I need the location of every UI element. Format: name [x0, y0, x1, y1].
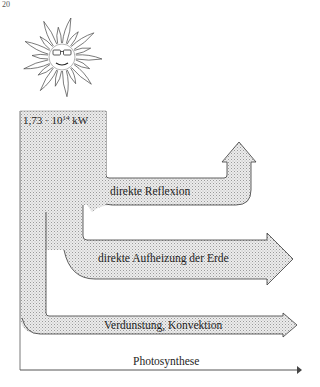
- sun-ray: [74, 60, 89, 69]
- sun-ray: [57, 27, 62, 43]
- sun-ray: [74, 48, 90, 54]
- label-aufheizung: direkte Aufheizung der Erde: [98, 253, 229, 265]
- power-unit: kW: [72, 114, 88, 126]
- label-verdunstung: Verdunstung, Konvektion: [104, 320, 222, 332]
- sun-ray: [62, 70, 68, 96]
- power-base: 1,73 · 10: [23, 114, 62, 126]
- sun-ray: [55, 70, 61, 86]
- label-reflexion: direkte Reflexion: [110, 186, 190, 198]
- photosynthese-arrowhead: [297, 366, 302, 374]
- sun-ray: [71, 33, 94, 50]
- sun-ray: [40, 68, 56, 91]
- sun-face: [49, 44, 75, 70]
- sun-ray: [38, 64, 53, 75]
- solar-power-label: 1,73 · 1014 kW: [23, 115, 88, 126]
- sun-ray: [76, 55, 102, 60]
- flow-arrow-verdunstung: [20, 111, 297, 337]
- sun-icon: [24, 18, 102, 97]
- flow-band: [20, 111, 302, 374]
- sun-ray: [44, 21, 57, 46]
- sun-ray: [32, 54, 48, 59]
- flow-arrow-aufheizung: [64, 205, 293, 285]
- power-exponent: 14: [62, 114, 69, 122]
- label-photosynthese: Photosynthese: [133, 356, 199, 368]
- sun-ray: [40, 37, 53, 50]
- sun-ray: [25, 41, 49, 54]
